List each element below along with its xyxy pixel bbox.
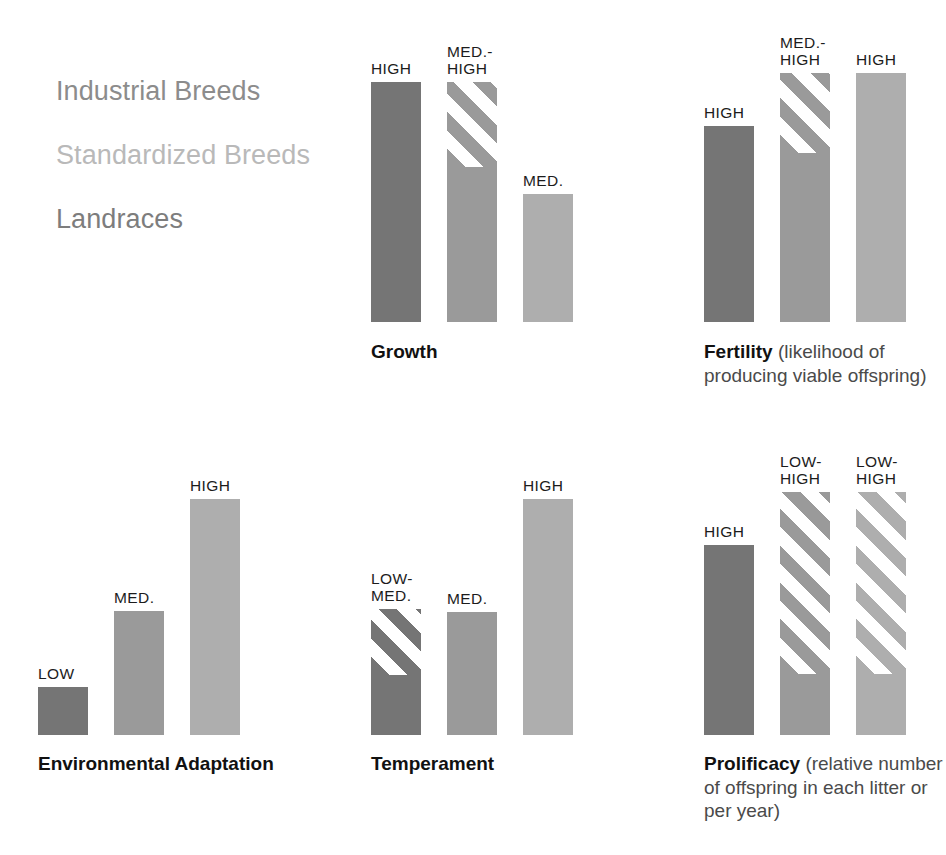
bar-body xyxy=(523,499,573,735)
bar-body xyxy=(190,499,240,735)
bar-industrial-breeds: LOW- MED. xyxy=(371,609,421,735)
bar-value-label: MED. xyxy=(447,591,521,608)
bar-body xyxy=(371,609,421,735)
bar-landraces: HIGH xyxy=(190,499,240,735)
bar-body xyxy=(38,687,88,735)
bar-solid-fill xyxy=(523,499,573,735)
bar-range-hatch xyxy=(371,609,421,675)
bar-solid-fill xyxy=(114,611,164,735)
bar-value-label: LOW- MED. xyxy=(371,571,445,604)
bar-range-hatch xyxy=(780,492,830,674)
bar-landraces: HIGH xyxy=(523,499,573,735)
bar-landraces: LOW- HIGH xyxy=(856,492,906,735)
bar-solid-fill xyxy=(371,675,421,735)
bar-standardized-breeds: LOW- HIGH xyxy=(780,492,830,735)
bar-body xyxy=(447,612,497,735)
bar-solid-fill xyxy=(856,674,906,735)
bar-standardized-breeds: MED. xyxy=(114,611,164,735)
bar-body xyxy=(114,611,164,735)
bar-value-label: HIGH xyxy=(704,524,778,541)
bar-value-label: LOW xyxy=(38,666,112,683)
bar-body xyxy=(704,545,754,735)
group-title: Temperament xyxy=(371,753,494,774)
bar-value-label: LOW- HIGH xyxy=(780,454,854,487)
bar-industrial-breeds: HIGH xyxy=(704,545,754,735)
bar-body xyxy=(780,492,830,735)
bar-solid-fill xyxy=(38,687,88,735)
bar-value-label: MED. xyxy=(114,590,188,607)
group-caption-temperament: Temperament xyxy=(371,752,621,776)
bar-solid-fill xyxy=(190,499,240,735)
group-title: Environmental Adaptation xyxy=(38,753,274,774)
chart-group-prolificacy: HIGHLOW- HIGHLOW- HIGH xyxy=(704,0,906,735)
group-caption-environmental-adaptation: Environmental Adaptation xyxy=(38,752,288,776)
bar-industrial-breeds: LOW xyxy=(38,687,88,735)
bar-value-label: HIGH xyxy=(523,478,597,495)
bar-standardized-breeds: MED. xyxy=(447,612,497,735)
bar-solid-fill xyxy=(447,612,497,735)
bar-solid-fill xyxy=(780,674,830,735)
bar-body xyxy=(856,492,906,735)
group-caption-prolificacy: Prolificacy (relative number of offsprin… xyxy=(704,752,946,823)
group-title: Prolificacy xyxy=(704,753,800,774)
bar-solid-fill xyxy=(704,545,754,735)
bar-range-hatch xyxy=(856,492,906,674)
chart-group-environmental-adaptation: LOWMED.HIGH xyxy=(38,0,240,735)
bar-value-label: HIGH xyxy=(190,478,264,495)
bar-value-label: LOW- HIGH xyxy=(856,454,930,487)
infographic-canvas: Industrial Breeds Standardized Breeds La… xyxy=(0,0,946,855)
chart-group-temperament: LOW- MED.MED.HIGH xyxy=(371,0,573,735)
